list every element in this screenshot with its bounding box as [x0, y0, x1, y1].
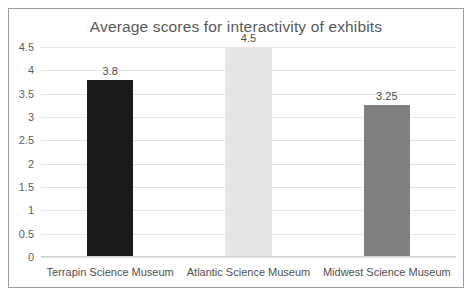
y-axis-tick-label: 4.5 — [19, 41, 34, 53]
x-axis-category-label: Atlantic Science Museum — [187, 266, 311, 278]
bar-value-label: 3.25 — [376, 90, 397, 102]
bar[interactable] — [87, 80, 133, 257]
chart-title: Average scores for interactivity of exhi… — [9, 18, 463, 36]
y-axis-tick-label: 2 — [28, 158, 34, 170]
x-axis-line — [41, 256, 456, 257]
y-axis-tick-label: 1 — [28, 204, 34, 216]
x-axis-category-label: Midwest Science Museum — [323, 266, 451, 278]
y-axis-tick-label: 0 — [28, 251, 34, 263]
plot-area: 4.543.532.521.510.50 3.8Terrapin Science… — [41, 47, 456, 257]
bar[interactable] — [225, 47, 271, 257]
x-axis-category-label: Terrapin Science Museum — [47, 266, 174, 278]
bar-group[interactable]: 4.5Atlantic Science Museum — [225, 47, 271, 257]
y-axis-tick-label: 3.5 — [19, 88, 34, 100]
y-axis-tick-label: 2.5 — [19, 134, 34, 146]
bar-value-label: 4.5 — [241, 32, 256, 44]
bar[interactable] — [364, 105, 410, 257]
y-axis-tick-label: 3 — [28, 111, 34, 123]
bar-group[interactable]: 3.8Terrapin Science Museum — [87, 47, 133, 257]
bars-layer: 3.8Terrapin Science Museum4.5Atlantic Sc… — [41, 47, 456, 257]
y-axis-tick-label: 0.5 — [19, 228, 34, 240]
y-axis-tick-label: 4 — [28, 64, 34, 76]
bar-group[interactable]: 3.25Midwest Science Museum — [364, 47, 410, 257]
y-axis-tick-label: 1.5 — [19, 181, 34, 193]
chart-container: Average scores for interactivity of exhi… — [8, 8, 464, 288]
gridline — [41, 257, 456, 258]
bar-value-label: 3.8 — [103, 65, 118, 77]
